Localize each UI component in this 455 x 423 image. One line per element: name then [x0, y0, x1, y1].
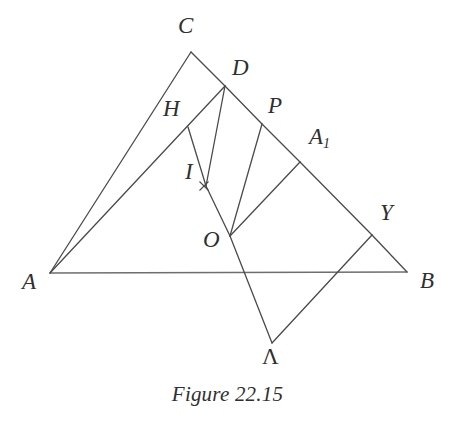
vertex-label-c: C	[178, 14, 193, 37]
figure-container: ABCDHPA1IOYΛ Figure 22.15	[0, 0, 455, 423]
figure-caption: Figure 22.15	[0, 382, 455, 407]
vertex-label-i: I	[185, 160, 193, 183]
segments-group	[50, 52, 407, 343]
side-AC	[50, 52, 191, 273]
side-CD	[191, 52, 225, 86]
vertex-label-o: O	[203, 228, 220, 251]
intersection-cross-I	[200, 182, 209, 191]
vertex-label-text: H	[163, 96, 180, 121]
vertex-label-d: D	[232, 56, 249, 79]
vertex-label-text: D	[232, 55, 249, 80]
vertex-label-text: Λ	[262, 344, 279, 369]
side-YB	[372, 235, 407, 272]
vertex-label-y: Y	[380, 201, 393, 224]
cevian-A-to-D	[50, 86, 225, 273]
vertex-label-text: I	[185, 159, 193, 184]
segment-O-lambda	[230, 236, 272, 343]
vertex-label-text: P	[268, 93, 282, 118]
vertex-label-p: P	[268, 94, 282, 117]
vertex-label-text: A	[22, 269, 36, 294]
vertex-label-text: A	[309, 124, 323, 149]
vertex-label-text: C	[178, 13, 193, 38]
segment-D-to-Q	[206, 86, 225, 186]
vertex-label-h: H	[163, 97, 180, 120]
vertex-label-text: Y	[380, 200, 393, 225]
vertex-label-text: O	[203, 227, 220, 252]
vertex-label-subscript: 1	[323, 136, 330, 151]
side-A1Y	[300, 162, 372, 235]
side-DP	[225, 86, 262, 124]
vertex-label-lambda: Λ	[262, 345, 279, 368]
vertex-label-a1: A1	[309, 125, 330, 148]
base-AB	[50, 272, 407, 273]
segment-lambda-Y	[272, 235, 372, 343]
vertex-label-b: B	[420, 269, 434, 292]
vertex-label-text: B	[420, 268, 434, 293]
markers-group	[200, 182, 209, 191]
side-PA1	[262, 124, 300, 162]
vertex-label-a: A	[22, 270, 36, 293]
